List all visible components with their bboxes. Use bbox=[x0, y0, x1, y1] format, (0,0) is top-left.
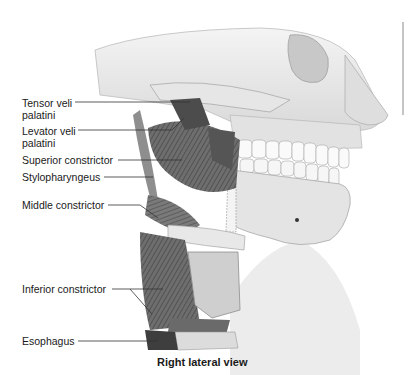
figure-caption: Right lateral view bbox=[157, 356, 247, 368]
label-line: Levator veli bbox=[22, 125, 76, 137]
neck-outline bbox=[230, 240, 360, 375]
label-line: palatini bbox=[22, 109, 72, 121]
label-line: palatini bbox=[22, 137, 76, 149]
label-esophagus: Esophagus bbox=[22, 335, 75, 347]
trachea bbox=[175, 332, 238, 350]
pharyngeal-muscles-illustration bbox=[0, 0, 412, 375]
label-stylopharyngeus: Stylopharyngeus bbox=[22, 171, 100, 183]
label-inferior-constrictor: Inferior constrictor bbox=[22, 283, 106, 295]
label-tensor-veli-palatini: Tensor veli palatini bbox=[22, 97, 72, 121]
esophagus-shape bbox=[145, 330, 178, 350]
mental-foramen bbox=[295, 218, 299, 222]
label-middle-constrictor: Middle constrictor bbox=[22, 199, 104, 211]
label-superior-constrictor: Superior constrictor bbox=[22, 154, 113, 166]
label-line: Tensor veli bbox=[22, 97, 72, 109]
stylopharyngeus bbox=[133, 110, 158, 205]
inferior-constrictor bbox=[140, 232, 200, 330]
label-levator-veli-palatini: Levator veli palatini bbox=[22, 125, 76, 149]
nose bbox=[345, 55, 388, 125]
